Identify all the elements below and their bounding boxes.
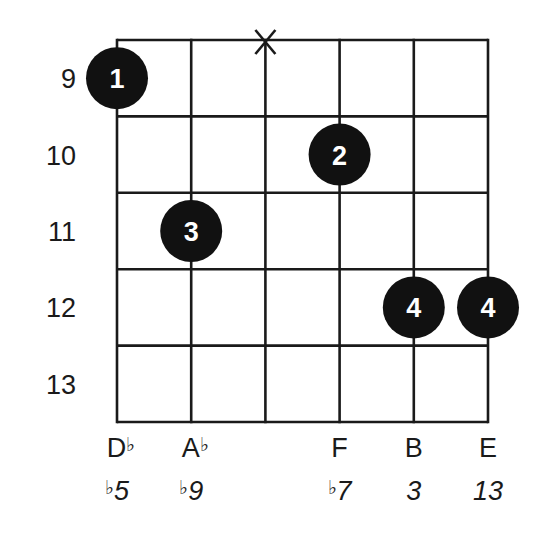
finger-dot: 3 xyxy=(160,200,222,262)
finger-number: 3 xyxy=(184,217,199,247)
note-name: E xyxy=(479,433,497,463)
interval-label: ♭9 xyxy=(179,476,203,506)
note-name-labels: D♭A♭FBE xyxy=(107,433,497,463)
finger-dot: 2 xyxy=(309,124,371,186)
chord-diagram: 910111213 13244 D♭A♭FBE ♭5♭9♭7313 xyxy=(0,0,545,538)
interval-labels: ♭5♭9♭7313 xyxy=(105,476,503,506)
fret-number: 10 xyxy=(46,141,76,171)
note-name: F xyxy=(331,433,348,463)
finger-dot: 1 xyxy=(86,47,148,109)
finger-dot: 4 xyxy=(457,276,519,338)
finger-number: 4 xyxy=(406,293,421,323)
interval-label: ♭7 xyxy=(328,476,353,506)
note-name: D♭ xyxy=(107,433,136,463)
fret-number: 11 xyxy=(48,217,76,247)
note-name: A♭ xyxy=(182,433,209,463)
note-name: B xyxy=(405,433,423,463)
interval-label: 13 xyxy=(473,476,503,506)
interval-label: ♭5 xyxy=(105,476,130,506)
finger-dot: 4 xyxy=(383,276,445,338)
fret-number-labels: 910111213 xyxy=(46,64,76,400)
finger-number: 1 xyxy=(109,64,124,94)
finger-number: 4 xyxy=(480,293,495,323)
finger-number: 2 xyxy=(332,141,347,171)
fret-number: 12 xyxy=(46,293,76,323)
fret-number: 9 xyxy=(61,64,76,94)
fret-number: 13 xyxy=(46,370,76,400)
interval-label: 3 xyxy=(406,476,421,506)
